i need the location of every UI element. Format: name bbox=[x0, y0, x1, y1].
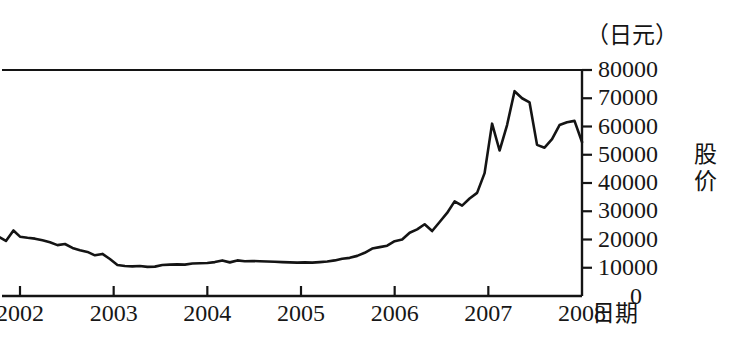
y-axis-title: 股价 bbox=[690, 141, 720, 195]
x-axis-tick-marks bbox=[20, 286, 488, 296]
y-tick-label: 0 bbox=[630, 284, 716, 308]
y-axis-tick-marks bbox=[582, 70, 592, 268]
y-tick-label: 10000 bbox=[598, 255, 684, 279]
y-tick-label: 70000 bbox=[598, 85, 684, 109]
x-tick-label: 2007 bbox=[448, 300, 528, 326]
x-tick-label: 2004 bbox=[167, 300, 247, 326]
y-tick-label: 60000 bbox=[598, 114, 684, 138]
x-tick-label: 2005 bbox=[261, 300, 341, 326]
x-tick-label: 2003 bbox=[74, 300, 154, 326]
y-tick-label: 40000 bbox=[598, 170, 684, 194]
y-tick-label: 80000 bbox=[598, 57, 684, 81]
x-axis-title: 日期 bbox=[592, 300, 638, 326]
x-tick-label: 2002 bbox=[0, 300, 60, 326]
y-tick-label: 50000 bbox=[598, 142, 684, 166]
stock-price-line bbox=[0, 91, 582, 267]
y-tick-label: 30000 bbox=[598, 198, 684, 222]
y-tick-label: 20000 bbox=[598, 227, 684, 251]
x-tick-label: 2006 bbox=[355, 300, 435, 326]
chart-figure: （日元） 01000020000300004000050000600007000… bbox=[0, 0, 748, 349]
